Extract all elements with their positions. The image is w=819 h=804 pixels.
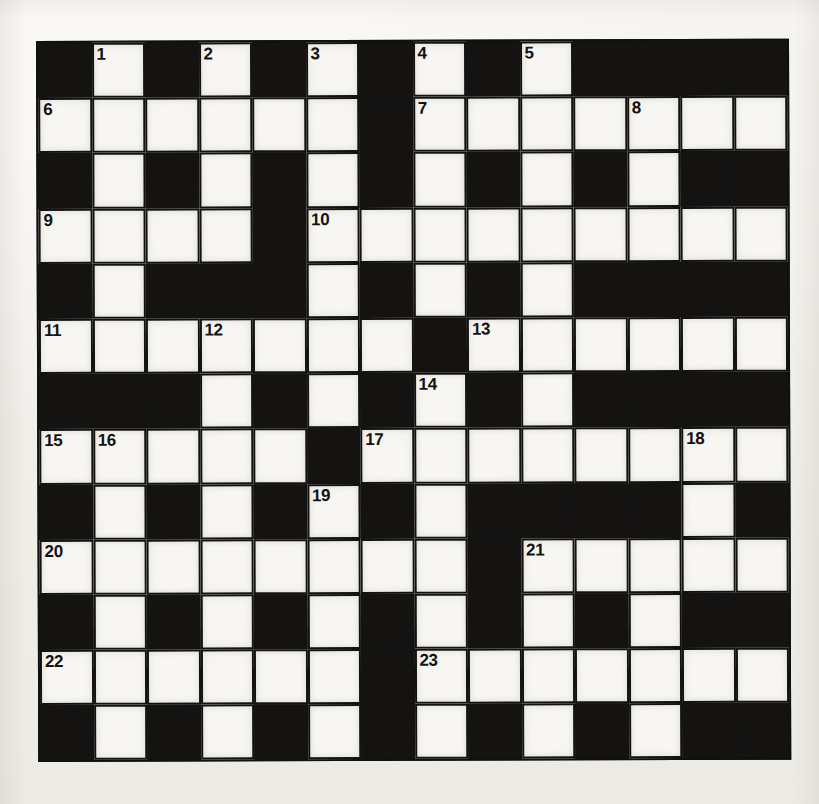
crossword-cell-open[interactable]	[521, 593, 575, 648]
crossword-cell-open[interactable]	[306, 263, 360, 318]
crossword-cell-open[interactable]	[92, 98, 146, 153]
crossword-cell-open[interactable]	[92, 208, 146, 263]
crossword-cell-open[interactable]	[92, 319, 146, 374]
crossword-cell-open[interactable]	[94, 705, 148, 760]
crossword-cell-open[interactable]	[521, 648, 575, 703]
crossword-cell-open[interactable]	[627, 151, 681, 206]
crossword-cell-open[interactable]	[628, 648, 682, 703]
crossword-cell-open[interactable]	[575, 648, 629, 703]
crossword-cell-open[interactable]	[414, 483, 468, 538]
crossword-cell-open[interactable]	[628, 593, 682, 648]
crossword-cell-open[interactable]: 13	[467, 317, 521, 372]
crossword-cell-open[interactable]	[414, 428, 468, 483]
crossword-cell-open[interactable]	[93, 595, 147, 650]
crossword-cell-open[interactable]	[735, 537, 789, 592]
crossword-cell-open[interactable]	[199, 98, 253, 153]
crossword-cell-open[interactable]	[734, 317, 788, 372]
crossword-cell-open[interactable]	[520, 317, 574, 372]
crossword-cell-open[interactable]	[682, 537, 736, 592]
crossword-cell-open[interactable]	[574, 317, 628, 372]
crossword-cell-open[interactable]	[520, 97, 574, 152]
crossword-cell-open[interactable]: 16	[93, 429, 147, 484]
crossword-cell-open[interactable]: 21	[521, 538, 575, 593]
crossword-cell-open[interactable]: 10	[306, 208, 360, 263]
crossword-cell-open[interactable]	[145, 98, 199, 153]
crossword-cell-open[interactable]	[414, 538, 468, 593]
crossword-cell-open[interactable]: 17	[360, 428, 414, 483]
crossword-cell-open[interactable]: 1	[92, 43, 146, 98]
crossword-cell-open[interactable]	[200, 649, 254, 704]
crossword-cell-open[interactable]	[467, 207, 521, 262]
crossword-cell-open[interactable]	[252, 97, 306, 152]
crossword-cell-open[interactable]: 18	[681, 427, 735, 482]
crossword-cell-open[interactable]	[253, 318, 307, 373]
crossword-cell-open[interactable]	[254, 539, 308, 594]
crossword-cell-open[interactable]	[468, 649, 522, 704]
crossword-cell-open[interactable]	[201, 705, 255, 760]
crossword-cell-open[interactable]	[200, 539, 254, 594]
crossword-cell-open[interactable]	[200, 429, 254, 484]
crossword-cell-open[interactable]	[466, 97, 520, 152]
crossword-cell-open[interactable]	[522, 704, 576, 759]
crossword-cell-open[interactable]	[573, 96, 627, 151]
crossword-cell-open[interactable]: 7	[413, 97, 467, 152]
crossword-cell-open[interactable]: 19	[307, 483, 361, 538]
crossword-cell-open[interactable]: 5	[520, 41, 574, 96]
crossword-cell-open[interactable]: 23	[414, 649, 468, 704]
crossword-cell-open[interactable]: 11	[39, 319, 93, 374]
crossword-cell-open[interactable]	[735, 648, 789, 703]
crossword-cell-open[interactable]: 8	[627, 96, 681, 151]
crossword-cell-open[interactable]	[413, 262, 467, 317]
crossword-cell-open[interactable]	[413, 207, 467, 262]
crossword-cell-open[interactable]	[574, 207, 628, 262]
crossword-cell-open[interactable]	[574, 427, 628, 482]
crossword-cell-open[interactable]	[200, 594, 254, 649]
crossword-cell-open[interactable]	[414, 594, 468, 649]
crossword-cell-open[interactable]	[307, 594, 361, 649]
crossword-cell-open[interactable]	[360, 318, 414, 373]
crossword-cell-open[interactable]	[734, 96, 788, 151]
crossword-cell-open[interactable]	[306, 152, 360, 207]
crossword-cell-open[interactable]	[93, 484, 147, 539]
crossword-cell-open[interactable]	[735, 427, 789, 482]
crossword-cell-open[interactable]	[199, 208, 253, 263]
crossword-cell-open[interactable]: 12	[199, 318, 253, 373]
crossword-cell-open[interactable]: 2	[199, 42, 253, 97]
crossword-cell-open[interactable]	[147, 650, 201, 705]
crossword-cell-open[interactable]: 9	[39, 208, 93, 263]
crossword-cell-open[interactable]	[680, 96, 734, 151]
crossword-cell-open[interactable]: 3	[306, 42, 360, 97]
crossword-cell-open[interactable]	[734, 206, 788, 261]
crossword-cell-open[interactable]: 4	[413, 42, 467, 97]
crossword-cell-open[interactable]	[361, 539, 415, 594]
crossword-cell-open[interactable]	[681, 482, 735, 537]
crossword-cell-open[interactable]: 6	[38, 98, 92, 153]
crossword-cell-open[interactable]	[147, 539, 201, 594]
crossword-cell-open[interactable]	[146, 429, 200, 484]
crossword-cell-open[interactable]	[92, 153, 146, 208]
crossword-cell-open[interactable]	[575, 538, 629, 593]
crossword-cell-open[interactable]	[306, 97, 360, 152]
crossword-cell-open[interactable]	[306, 318, 360, 373]
crossword-cell-open[interactable]	[467, 428, 521, 483]
crossword-cell-open[interactable]	[199, 153, 253, 208]
crossword-cell-open[interactable]	[521, 372, 575, 427]
crossword-cell-open[interactable]	[628, 427, 682, 482]
crossword-cell-open[interactable]	[520, 207, 574, 262]
crossword-cell-open[interactable]	[681, 206, 735, 261]
crossword-cell-open[interactable]	[146, 208, 200, 263]
crossword-cell-open[interactable]	[92, 263, 146, 318]
crossword-cell-open[interactable]	[627, 317, 681, 372]
crossword-cell-open[interactable]	[520, 262, 574, 317]
crossword-cell-open[interactable]	[93, 539, 147, 594]
crossword-cell-open[interactable]: 15	[39, 429, 93, 484]
crossword-cell-open[interactable]	[413, 152, 467, 207]
crossword-cell-open[interactable]: 22	[40, 650, 94, 705]
crossword-cell-open[interactable]	[146, 318, 200, 373]
crossword-cell-open[interactable]: 20	[40, 540, 94, 595]
crossword-cell-open[interactable]	[629, 703, 683, 758]
crossword-cell-open[interactable]: 14	[414, 373, 468, 428]
crossword-cell-open[interactable]	[627, 207, 681, 262]
crossword-cell-open[interactable]	[681, 317, 735, 372]
crossword-cell-open[interactable]	[307, 373, 361, 428]
